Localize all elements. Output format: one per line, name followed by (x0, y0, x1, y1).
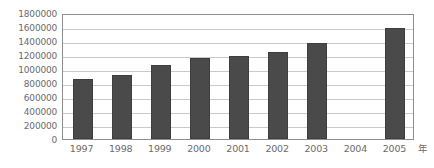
bar (268, 52, 288, 140)
bar (73, 79, 93, 139)
bar (385, 28, 405, 139)
bar-chart: 0200000400000600000800000100000012000001… (0, 0, 434, 168)
x-axis-tick-label: 2001 (226, 142, 249, 155)
x-axis-tick-label: 2000 (187, 142, 210, 155)
y-axis-tick-label: 600000 (24, 94, 57, 103)
x-axis-tick-label: 2003 (305, 142, 328, 155)
y-axis-tick-label: 1200000 (18, 52, 57, 61)
x-axis-tick-label: 1999 (148, 142, 171, 155)
x-axis-tick-label: 2002 (265, 142, 288, 155)
y-axis-tick-label: 800000 (24, 80, 57, 89)
y-axis-tick-label: 1400000 (18, 38, 57, 47)
plot-area (62, 14, 414, 140)
y-axis-tick-labels: 0200000400000600000800000100000012000001… (0, 0, 60, 168)
bar (112, 75, 132, 139)
x-axis-tick-label: 2005 (383, 142, 406, 155)
y-axis-tick-label: 1600000 (18, 24, 57, 33)
x-axis-unit-label: 年 (418, 142, 428, 155)
y-axis-tick-label: 1800000 (18, 10, 57, 19)
bar (190, 58, 210, 139)
bar (151, 65, 171, 139)
y-axis-tick-label: 200000 (24, 122, 57, 131)
x-axis-tick-labels: 199719981999200020012002200320042005 (62, 142, 414, 158)
y-axis-tick-label: 0 (51, 136, 57, 145)
x-axis-tick-label: 1997 (70, 142, 93, 155)
bar (229, 56, 249, 139)
x-axis-tick-label: 2004 (344, 142, 367, 155)
bars-layer (63, 15, 413, 139)
y-axis-tick-label: 400000 (24, 108, 57, 117)
bar (307, 43, 327, 139)
x-axis-tick-label: 1998 (109, 142, 132, 155)
y-axis-tick-label: 1000000 (18, 66, 57, 75)
